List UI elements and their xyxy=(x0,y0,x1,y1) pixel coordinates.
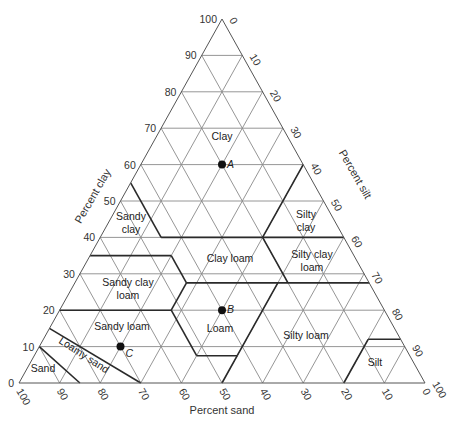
sand-tick-label: 10 xyxy=(380,386,396,402)
clay-tick-label: 100 xyxy=(199,13,217,25)
region-label-loam: Loam xyxy=(207,322,234,334)
sample-point-label: C xyxy=(126,347,134,359)
sand-tick-label: 30 xyxy=(298,386,314,402)
region-label-silty-clay: Siltyclay xyxy=(296,208,317,233)
clay-tick-label: 0 xyxy=(8,377,14,389)
region-label-sandy-clay: Sandyclay xyxy=(116,210,147,235)
silt-tick-label: 20 xyxy=(268,88,284,104)
region-label-silty-loam: Silty loam xyxy=(283,329,329,341)
clay-tick-label: 90 xyxy=(185,49,197,61)
region-label-clay-loam: Clay loam xyxy=(207,252,254,264)
class-boundary xyxy=(344,339,368,383)
sand-tick-label: 0 xyxy=(420,386,433,397)
silt-tick-label: 70 xyxy=(369,270,385,286)
sample-point-label: A xyxy=(226,158,234,170)
sample-point-b xyxy=(218,306,226,314)
region-label-sandy-clay-loam: Sandy clayloam xyxy=(102,276,154,301)
sand-tick-label: 50 xyxy=(217,386,233,402)
class-boundary xyxy=(222,356,237,383)
sand-tick-label: 100 xyxy=(14,386,33,407)
sand-tick-label: 20 xyxy=(339,386,355,402)
clay-tick-label: 50 xyxy=(104,195,116,207)
silt-tick-label: 40 xyxy=(308,161,324,177)
class-boundary xyxy=(263,237,288,283)
class-boundary xyxy=(171,256,186,283)
sand-tick-label: 60 xyxy=(177,386,193,402)
sand-axis-title: Percent sand xyxy=(190,404,255,416)
sample-point-c xyxy=(117,343,125,351)
region-label-silt: Silt xyxy=(368,356,383,368)
region-label-sandy-loam: Sandy loam xyxy=(94,320,150,332)
silt-tick-label: 90 xyxy=(410,343,426,359)
silt-tick-label: 50 xyxy=(329,197,345,213)
sand-tick-label: 90 xyxy=(55,386,71,402)
sand-tick-label: 80 xyxy=(95,386,111,402)
class-boundary xyxy=(237,283,278,356)
region-label-silty-clay-loam: Silty clayloam xyxy=(291,248,333,273)
sand-tick-label: 40 xyxy=(258,386,274,402)
clay-tick-label: 60 xyxy=(124,159,136,171)
silt-tick-label: 30 xyxy=(288,124,304,140)
clay-tick-label: 70 xyxy=(144,122,156,134)
clay-tick-label: 40 xyxy=(84,231,96,243)
silt-gridline xyxy=(384,347,404,383)
silt-tick-label: 80 xyxy=(390,306,406,322)
silt-axis-title: Percent silt xyxy=(337,147,375,200)
soil-texture-triangle: 0102030405060708090100010203040506070809… xyxy=(0,0,449,428)
sand-tick-label: 70 xyxy=(136,386,152,402)
region-label-clay: Clay xyxy=(211,130,233,142)
clay-tick-label: 80 xyxy=(165,86,177,98)
silt-tick-label: 0 xyxy=(227,15,240,26)
sample-point-a xyxy=(218,161,226,169)
class-boundary xyxy=(171,310,196,356)
region-label-sand: Sand xyxy=(31,362,56,374)
sample-point-label: B xyxy=(227,303,234,315)
silt-tick-label: 10 xyxy=(248,51,264,67)
silt-tick-label: 60 xyxy=(349,233,365,249)
clay-tick-label: 10 xyxy=(23,341,35,353)
clay-tick-label: 20 xyxy=(43,304,55,316)
clay-tick-label: 30 xyxy=(63,268,75,280)
